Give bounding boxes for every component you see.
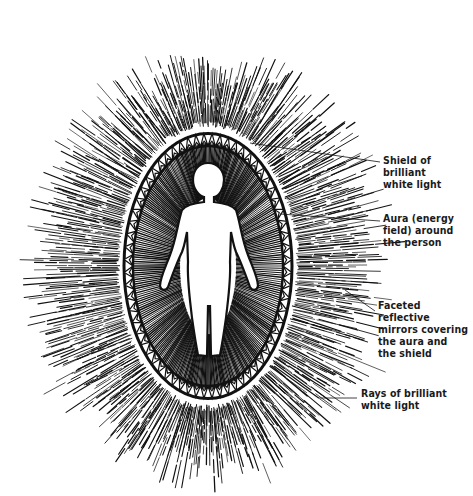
label-mirrors: Faceted reflective mirrors covering the … [378, 299, 473, 359]
leader-mirrors [345, 290, 375, 311]
label-shield: Shield of brilliant white light [383, 154, 441, 190]
aura-diagram [0, 0, 473, 496]
label-rays: Rays of brilliant white light [361, 387, 447, 411]
leader-aura [280, 214, 380, 221]
label-aura: Aura (energy field) around the person [383, 212, 454, 248]
